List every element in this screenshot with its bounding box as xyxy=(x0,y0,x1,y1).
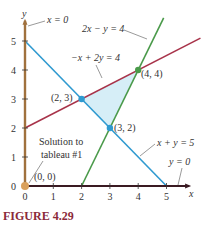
point-label-3-2: (3, 2) xyxy=(114,122,136,134)
leader-2x-minus-y xyxy=(124,30,147,39)
x-tick-label: 1 xyxy=(51,191,56,202)
annotation-line1: Solution to xyxy=(39,136,83,147)
x-tick-label: 2 xyxy=(79,191,84,202)
vertex-point xyxy=(78,96,84,102)
vertex-point xyxy=(21,182,29,190)
y-tick-label: 0 xyxy=(11,181,16,192)
figure-canvas: 012345012345 y x x = 0 2x − y = 4 −x + 2… xyxy=(0,0,207,228)
x-tick-label: 0 xyxy=(23,191,28,202)
leader-neg-x-plus-2y xyxy=(96,65,102,78)
x-tick-label: 3 xyxy=(107,191,112,202)
leader-x-eq-0 xyxy=(28,21,45,26)
x-tick-label: 4 xyxy=(136,191,141,202)
x-tick-label: 5 xyxy=(164,191,169,202)
point-label-4-4: (4, 4) xyxy=(141,68,163,80)
figure-caption: FIGURE 4.29 xyxy=(3,209,74,223)
point-label-0-0: (0, 0) xyxy=(34,171,56,183)
leader-x-plus-y xyxy=(140,144,155,156)
label-y-eq-0: y = 0 xyxy=(168,156,190,167)
y-axis-label: y xyxy=(21,8,27,19)
leader-y-eq-0 xyxy=(178,168,182,185)
y-tick-label: 1 xyxy=(11,152,16,163)
feasible-region xyxy=(82,70,139,128)
y-axis-arrow xyxy=(23,19,28,25)
y-tick-label: 2 xyxy=(11,123,16,134)
label-2x-minus-y: 2x − y = 4 xyxy=(82,23,124,34)
label-x-eq-0: x = 0 xyxy=(46,14,68,25)
x-axis-label: x xyxy=(188,188,194,199)
vertex-point xyxy=(107,125,113,131)
y-tick-label: 4 xyxy=(11,65,16,76)
y-tick-label: 3 xyxy=(11,94,16,105)
label-neg-x-plus-2y: −x + 2y = 4 xyxy=(71,52,120,63)
label-x-plus-y: x + y = 5 xyxy=(156,137,194,148)
annotation-line2: tableau #1 xyxy=(41,149,82,160)
point-label-2-3: (2, 3) xyxy=(51,92,73,104)
y-tick-label: 5 xyxy=(11,36,16,47)
